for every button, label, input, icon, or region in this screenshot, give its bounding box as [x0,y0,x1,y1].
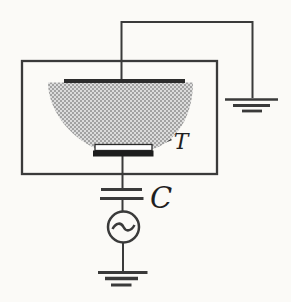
capacitor-label: C [150,181,172,215]
target-label: T [174,129,191,154]
target-electrode [93,151,154,157]
target-holder [95,145,152,151]
top-electrode [64,79,185,83]
plasma-schematic-figure: T C [0,0,291,302]
diagram-canvas: T C [0,0,291,302]
